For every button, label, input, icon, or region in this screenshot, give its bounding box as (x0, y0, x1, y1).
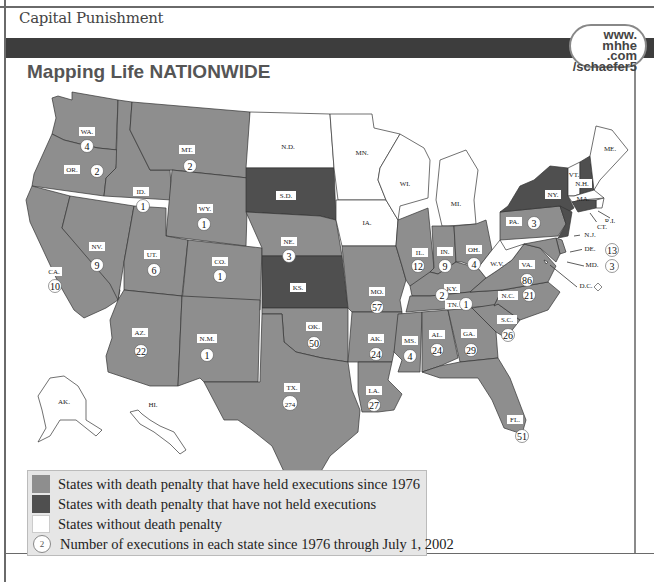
execution-count-mt: 2 (188, 161, 193, 172)
state-label-ma: MA. (576, 195, 589, 203)
state-label-vt: VT. (569, 171, 580, 179)
execution-count-mo: 57 (372, 302, 382, 313)
state-label-la: LA. (368, 387, 379, 395)
execution-count-or: 2 (95, 166, 100, 177)
state-nm (178, 296, 260, 386)
leader-de (570, 249, 584, 252)
dc-diamond-icon (594, 283, 602, 291)
state-ny (500, 166, 574, 212)
state-label-nj: N.J. (584, 231, 596, 239)
execution-count-in: 9 (443, 261, 448, 272)
header-band (6, 38, 654, 58)
state-label-ga: GA. (463, 330, 475, 338)
website-url-badge[interactable]: www. mhhe .com /schaefer5 (569, 24, 647, 68)
state-label-wy: WY. (199, 205, 212, 213)
state-label-il: IL. (416, 249, 425, 257)
state-me (590, 126, 628, 190)
state-label-mt: MT. (181, 146, 193, 154)
execution-count-tx: 274 (285, 401, 296, 409)
state-label-arkansas: AK. (370, 335, 382, 343)
state-alaska (38, 376, 102, 442)
state-label-in: IN. (440, 248, 449, 256)
state-label-nm: N.M. (200, 335, 215, 343)
legend-item-no-executions: States with death penalty that have not … (32, 495, 376, 513)
state-label-ks: KS. (293, 284, 304, 292)
state-label-pa: PA. (509, 218, 519, 226)
legend-label: States with death penalty that have not … (58, 496, 376, 513)
top-rule (0, 0, 654, 8)
state-label-hi: HI. (148, 401, 157, 409)
state-label-tn: TN. (447, 301, 458, 309)
state-label-va: VA. (522, 261, 533, 269)
legend-label: Number of executions in each state since… (60, 536, 454, 553)
state-label-id: ID. (136, 188, 145, 196)
state-label-mi: MI. (451, 200, 462, 208)
state-ks (262, 256, 348, 308)
url-part: /schaefer5 (571, 62, 637, 73)
state-label-ne: NE. (283, 238, 294, 246)
execution-count-de: 13 (607, 245, 617, 256)
state-label-wi: WI. (400, 180, 411, 188)
execution-count-nc: 21 (524, 290, 534, 301)
state-ri (596, 198, 604, 208)
execution-count-co: 1 (218, 271, 223, 282)
leader-nj (574, 235, 581, 236)
execution-count-wa: 4 (85, 141, 90, 152)
execution-count-ky: 2 (440, 290, 445, 301)
state-label-sd: S.D. (280, 192, 293, 200)
state-label-ct: CT. (597, 223, 607, 231)
execution-count-az: 22 (136, 346, 146, 357)
execution-count-nm: 1 (205, 350, 210, 361)
execution-count-ga: 29 (466, 345, 476, 356)
execution-count-la: 27 (369, 400, 379, 411)
execution-count-nv: 9 (95, 260, 100, 271)
execution-count-fl: 51 (517, 431, 527, 442)
execution-count-md: 3 (610, 261, 615, 272)
state-label-ok: OK. (308, 323, 320, 331)
legend-item-executed: States with death penalty that have held… (32, 475, 420, 493)
state-hi (130, 410, 186, 454)
execution-count-id: 1 (141, 201, 146, 212)
execution-count-sc: 26 (503, 330, 513, 341)
state-label-nv: NV. (92, 243, 103, 251)
leader-dc (550, 265, 577, 287)
execution-count-ca: 10 (50, 281, 60, 292)
legend: States with death penalty that have held… (27, 470, 427, 556)
state-label-wv: W.V. (490, 260, 504, 268)
state-label-tx: TX. (286, 384, 297, 392)
state-label-az: AZ. (134, 329, 145, 337)
state-label-ny: NY. (548, 191, 559, 199)
execution-count-ut: 6 (152, 265, 157, 276)
state-label-de: DE. (584, 245, 595, 253)
state-label-md: MD. (585, 261, 598, 269)
state-label-ms: MS. (404, 337, 416, 345)
legend-item-no-death-penalty: States without death penalty (32, 515, 222, 533)
execution-count-ms: 4 (408, 351, 413, 362)
state-label-or: OR. (66, 166, 78, 174)
execution-count-tn: 1 (464, 299, 469, 310)
leader-md (567, 262, 584, 266)
execution-count-il: 12 (413, 261, 423, 272)
execution-count-arkansas: 24 (371, 349, 381, 360)
state-az (106, 290, 182, 386)
state-mi (436, 150, 478, 226)
state-label-nc: N.C. (501, 292, 514, 300)
states-layer (26, 92, 628, 480)
legend-label: States with death penalty that have held… (58, 476, 420, 493)
legend-swatch-no-executions (32, 495, 50, 513)
count-circle-icon: 2 (33, 535, 51, 553)
execution-count-oh: 4 (472, 259, 477, 270)
legend-label: States without death penalty (58, 516, 222, 533)
execution-count-va: 86 (522, 275, 532, 286)
state-label-wa: WA. (81, 128, 94, 136)
state-label-co: CO. (214, 258, 226, 266)
execution-count-al: 24 (432, 345, 442, 356)
state-label-fl: FL. (510, 416, 520, 424)
state-label-nd: N.D. (281, 143, 295, 151)
state-label-oh: OH. (468, 246, 480, 254)
state-label-sc: S.C. (501, 316, 513, 324)
legend-swatch-executed (32, 475, 50, 493)
state-label-ut: UT. (147, 251, 158, 259)
execution-count-wy: 1 (202, 219, 207, 230)
legend-item-count: 2 Number of executions in each state sin… (32, 535, 454, 553)
